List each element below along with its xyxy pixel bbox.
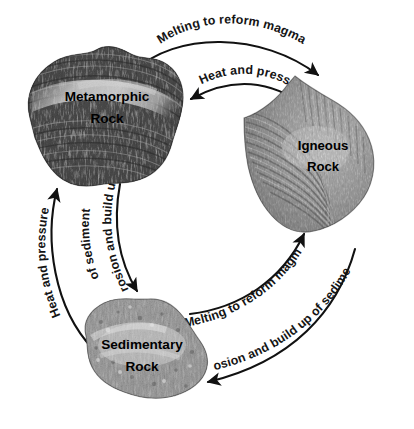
rock-metamorphic: Metamorphic Rock bbox=[20, 40, 196, 196]
rock-label-metamorphic-line2: Rock bbox=[90, 111, 124, 126]
rock-cycle-diagram: Melting to reform magma Heat and pressur… bbox=[0, 0, 414, 429]
arrow-label-heat-left: Heat and pressure bbox=[34, 206, 63, 320]
diagram-canvas: Melting to reform magma Heat and pressur… bbox=[0, 0, 414, 429]
rock-label-sedimentary-line2: Rock bbox=[125, 359, 159, 374]
rock-label-sedimentary-line1: Sedimentary bbox=[101, 337, 183, 352]
rock-igneous: Igneous Rock bbox=[238, 70, 380, 251]
rock-sedimentary: Sedimentary Rock bbox=[80, 292, 215, 404]
rock-label-metamorphic-line1: Metamorphic bbox=[65, 89, 150, 104]
rock-label-igneous-line1: Igneous bbox=[298, 138, 349, 153]
arrow-label-erosion-left-line2: of sediment bbox=[78, 208, 102, 282]
rock-label-igneous-line2: Rock bbox=[307, 159, 340, 174]
